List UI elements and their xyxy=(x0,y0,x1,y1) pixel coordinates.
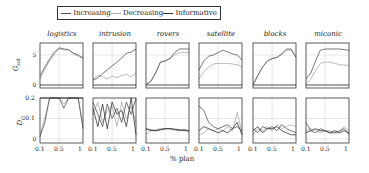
series-line-increasing xyxy=(40,48,83,76)
panel-rovers-gsat xyxy=(146,43,189,88)
series-line-decreasing xyxy=(146,53,189,85)
panel-miconic-dg xyxy=(306,98,349,143)
series-line-increasing xyxy=(146,49,189,84)
panel-logistics-gsat xyxy=(40,43,83,88)
series-line-decreasing xyxy=(306,62,349,84)
series-line-increasing xyxy=(40,98,83,137)
panel-blocks-gsat xyxy=(253,43,296,88)
series-line-decreasing xyxy=(146,129,189,135)
panel-rovers-dg xyxy=(146,98,189,143)
panel-satellite-gsat xyxy=(199,43,242,88)
panel-miconic-gsat xyxy=(306,43,349,88)
panel-logistics-dg xyxy=(40,98,83,143)
series-line-decreasing xyxy=(253,50,296,85)
series-line-increasing xyxy=(253,49,296,85)
panel-satellite-dg xyxy=(199,98,242,143)
series-line-decreasing xyxy=(199,63,242,79)
chart-plot-area xyxy=(0,0,369,173)
panel-intrusion-dg xyxy=(93,98,136,143)
panel-blocks-dg xyxy=(253,98,296,143)
series-line-increasing xyxy=(93,98,136,127)
series-line-increasing xyxy=(199,50,242,70)
series-line-increasing xyxy=(306,49,349,79)
series-line-informative xyxy=(199,123,242,135)
panel-intrusion-gsat xyxy=(93,43,136,88)
